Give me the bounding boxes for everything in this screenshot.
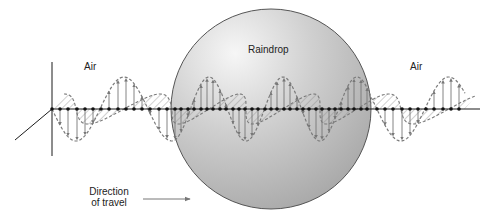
direction-label-line1: Direction: [80, 186, 138, 197]
air-label-right: Air: [410, 61, 422, 72]
diagram-canvas: Air Raindrop Air Direction of travel: [0, 0, 483, 224]
direction-of-travel-label: Direction of travel: [80, 186, 138, 208]
wave-diagram-svg: [0, 0, 483, 224]
air-label-left: Air: [84, 61, 96, 72]
direction-label-line2: of travel: [80, 197, 138, 208]
diagonal-axis: [15, 109, 52, 140]
raindrop-label: Raindrop: [248, 44, 289, 55]
